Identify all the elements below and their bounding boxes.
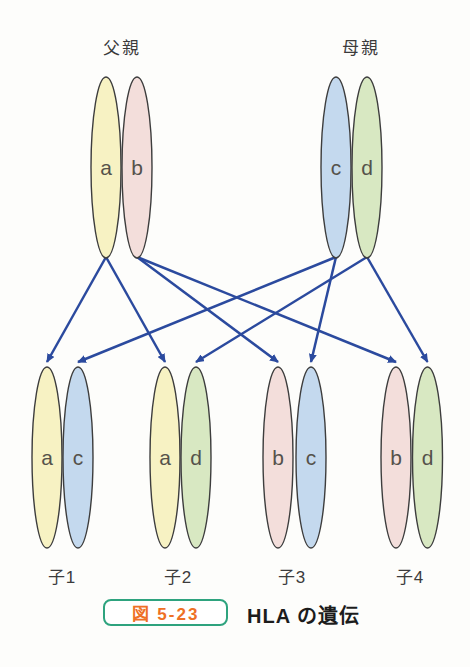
haplotype-letter-b-child-4: b xyxy=(390,446,402,469)
inheritance-arrow-b-to-child-3 xyxy=(137,257,278,362)
haplotype-letter-b-child-3: b xyxy=(272,446,284,469)
inheritance-arrow-a-to-child-1 xyxy=(47,257,106,362)
inheritance-arrow-d-to-child-4 xyxy=(367,257,428,362)
figure-label-box: 図 5-23 xyxy=(103,599,228,626)
haplotype-letter-c-child-1: c xyxy=(73,446,84,469)
haplotype-letter-c-child-3: c xyxy=(306,446,317,469)
inheritance-arrow-c-to-child-3 xyxy=(311,257,336,362)
child-4-label: 子4 xyxy=(396,563,424,588)
haplotype-letter-a-father: a xyxy=(100,156,112,179)
haplotype-letter-d-mother: d xyxy=(361,156,373,179)
child-3-label: 子3 xyxy=(278,563,306,588)
haplotype-letter-d-child-2: d xyxy=(190,446,202,469)
figure-title: HLA の遺伝 xyxy=(247,600,360,629)
child-2-label: 子2 xyxy=(164,563,192,588)
mother-label: 母親 xyxy=(342,34,380,59)
figure-label: 図 5-23 xyxy=(132,600,200,625)
haplotype-letter-d-child-4: d xyxy=(422,446,434,469)
haplotype-letter-c-mother: c xyxy=(331,156,342,179)
haplotype-letter-a-child-1: a xyxy=(41,446,53,469)
child-1-label: 子1 xyxy=(48,563,76,588)
figure-caption: 図 5-23 HLA の遺伝 xyxy=(0,597,470,629)
father-label: 父親 xyxy=(103,34,141,59)
inheritance-arrow-d-to-child-2 xyxy=(196,257,367,362)
hla-inheritance-diagram: abcdacadbcbd 父親 母親 子1 子2 子3 子4 図 5-23 HL… xyxy=(0,0,470,667)
haplotype-letter-a-child-2: a xyxy=(159,446,171,469)
inheritance-arrow-b-to-child-4 xyxy=(137,257,396,362)
haplotype-letter-b-father: b xyxy=(131,156,143,179)
